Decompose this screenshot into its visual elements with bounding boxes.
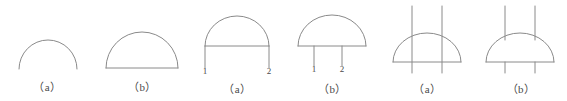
node-label-2: 2	[340, 64, 345, 74]
node-label-1: 1	[312, 64, 317, 74]
open-arc-path	[19, 40, 77, 69]
figure-caption: （b）	[285, 80, 380, 96]
dome-arc-path	[205, 16, 269, 46]
figure-dome-broken-lines: （b）	[475, 0, 567, 101]
dome-arc-path	[486, 33, 554, 62]
semicircle-arc-path	[106, 32, 178, 68]
dome-arc-path	[298, 15, 366, 46]
figure-dome-inner-legs: 1 2 （b）	[285, 0, 380, 101]
figure-dome-chord-legs: 1 2 （a）	[190, 0, 285, 101]
figure-caption: （b）	[95, 78, 190, 94]
figure-semicircle-closed: （b）	[95, 0, 190, 101]
figure-caption: （b）	[475, 80, 567, 96]
node-label-1: 1	[203, 66, 208, 76]
figure-row: （a） （b） 1 2 （a）	[0, 0, 567, 101]
figure-caption: （a）	[0, 78, 95, 94]
figure-caption: （a）	[190, 80, 285, 96]
dome-arc-path	[393, 33, 461, 62]
figure-caption: （a）	[380, 80, 475, 96]
figure-dome-through-lines: （a）	[380, 0, 475, 101]
node-label-2: 2	[267, 66, 272, 76]
figure-arc-open: （a）	[0, 0, 95, 101]
